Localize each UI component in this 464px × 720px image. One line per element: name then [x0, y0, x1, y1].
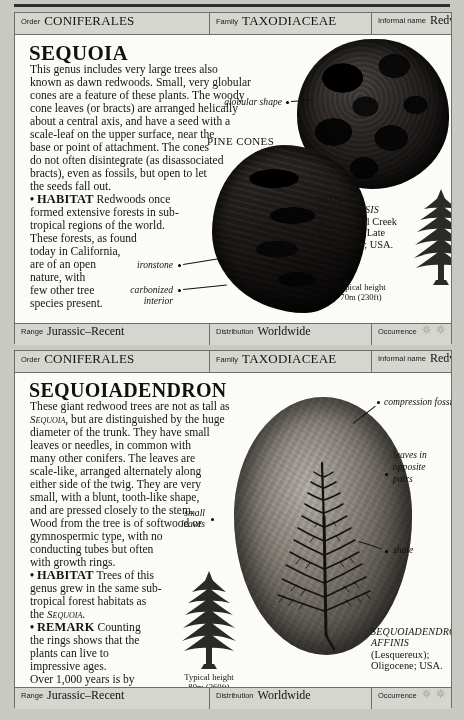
family-value: TAXODIACEAE — [242, 351, 336, 367]
habitat-bullet: • — [30, 569, 34, 582]
habitat-line: Redwoods once — [94, 193, 171, 206]
body-line: This genus includes very large trees als… — [30, 63, 298, 76]
body-line: many other conifers. The leaves are — [30, 452, 290, 465]
body-line-italic-lead: Sequoia, but are distinguished by the hu… — [30, 413, 290, 426]
habitat-line: These forests, as found — [30, 232, 230, 245]
family-cell: Family TAXODIACEAE — [209, 351, 371, 372]
body-line: Wood from the tree is of softwood or — [30, 517, 290, 530]
callout-text: carbonized interior — [130, 284, 173, 306]
rosette-icon — [435, 688, 446, 699]
entry-sequoia: Order CONIFERALES Family TAXODIACEAE Inf… — [14, 12, 452, 344]
habitat-line: Trees of this — [94, 569, 154, 582]
description-text: This genus includes very large trees als… — [30, 63, 298, 193]
order-cell: Order CONIFERALES — [15, 351, 209, 372]
occurrence-symbols — [421, 324, 446, 335]
callout-dot — [178, 289, 181, 292]
callout-dot — [377, 401, 380, 404]
range-value: Jurassic–Recent — [47, 688, 124, 703]
occurrence-cell: Occurrence — [371, 688, 451, 709]
entry-body: SEQUOIA This genus includes very large t… — [15, 35, 451, 323]
specimen-detail-line: Formation; Late — [318, 227, 385, 238]
habitat-first-line: • HABITAT Redwoods once — [30, 193, 230, 206]
callout-dot — [385, 550, 388, 553]
habitat-line: formed extensive forests in sub- — [30, 206, 230, 219]
body-line: conducting tubes but often — [30, 543, 290, 556]
entry-footer-bar: Range Jurassic–Recent Distribution World… — [15, 323, 451, 345]
occurrence-label: Occurrence — [378, 327, 417, 336]
body-line: known as dawn redwoods. Small, very glob… — [30, 76, 298, 89]
habitat-bullet: • — [30, 193, 34, 206]
distribution-value: Worldwide — [258, 688, 311, 703]
order-value: CONIFERALES — [44, 351, 134, 367]
fossil-reference-page: Order CONIFERALES Family TAXODIACEAE Inf… — [0, 0, 464, 720]
callout-dot — [385, 473, 388, 476]
remark-bullet: • — [30, 621, 34, 634]
body-line: bracts), even as fossils, but open to le… — [30, 167, 298, 180]
family-label: Family — [216, 355, 238, 364]
entry-sequoiadendron: Order CONIFERALES Family TAXODIACEAE Inf… — [14, 350, 452, 708]
callout-shale: shale — [393, 545, 413, 556]
informal-name-value: Redwood — [430, 13, 451, 28]
body-line: either side of the twig. They are very — [30, 478, 290, 491]
body-line: diameter of the trunk. They have small — [30, 426, 290, 439]
distribution-value: Worldwide — [258, 324, 311, 339]
inline-genus-italic: Sequoia — [47, 608, 82, 620]
callout-dot — [178, 264, 181, 267]
body-line: the seeds fall out. — [30, 180, 298, 193]
specimen-species-line: SEQUOIADENDRON — [371, 626, 451, 637]
range-label: Range — [21, 691, 43, 700]
rosette-icon — [421, 324, 432, 335]
informal-name-cell: Informal name Redwood — [371, 13, 451, 34]
body-line: and are pressed closely to the stem. — [30, 504, 290, 517]
distribution-cell: Distribution Worldwide — [209, 688, 371, 709]
body-line: do not often disintegrate (as disassocia… — [30, 154, 298, 167]
callout-carbonized-interior: carbonized interior — [107, 285, 173, 306]
range-cell: Range Jurassic–Recent — [15, 688, 209, 709]
body-line: small, with a blunt, tooth-like shape, — [30, 491, 290, 504]
occurrence-symbols — [421, 688, 446, 699]
callout-globular-shape: globular shape — [190, 97, 282, 108]
informal-name-value: Redwood — [430, 351, 451, 366]
rosette-icon — [421, 688, 432, 699]
body-line: leaves or needles, in common with — [30, 439, 290, 452]
entry-body: SEQUOIADENDRON These giant redwood trees… — [15, 373, 451, 687]
habitat-line: tropical regions of the world. — [30, 219, 230, 232]
callout-compression-fossil: compression fossil — [384, 397, 451, 408]
range-cell: Range Jurassic–Recent — [15, 324, 209, 345]
specimen-species: SEQUOIA DAKOTENSIS — [318, 193, 410, 216]
typical-height-note: Typical height 70m (230ft) — [315, 283, 407, 302]
remark-label: REMARK — [37, 621, 95, 634]
inline-genus-italic: Sequoia — [30, 413, 65, 425]
entry-header-bar: Order CONIFERALES Family TAXODIACEAE Inf… — [15, 351, 451, 373]
callout-small-leaves: small leaves — [163, 507, 205, 529]
distribution-label: Distribution — [216, 691, 254, 700]
body-line: gymnospermic type, with no — [30, 530, 290, 543]
informal-name-cell: Informal name Redwood — [371, 351, 451, 372]
habitat-line: today in California, — [30, 245, 230, 258]
callout-leaves-in-opposite-pairs: leaves in opposite pairs — [393, 449, 427, 485]
order-cell: Order CONIFERALES — [15, 13, 209, 34]
callout-text: small leaves — [181, 507, 205, 529]
callout-text: leaves in opposite pairs — [393, 449, 427, 484]
callout-dot — [211, 518, 214, 521]
occurrence-cell: Occurrence — [371, 324, 451, 345]
callout-dot — [286, 101, 289, 104]
typical-height-value: 70m (230ft) — [340, 292, 381, 302]
specimen-detail-line: Cretaceous; USA. — [318, 239, 393, 250]
habitat-line: nature, with — [30, 271, 230, 284]
order-label: Order — [21, 17, 40, 26]
family-label: Family — [216, 17, 238, 26]
callout-ironstone: ironstone — [111, 260, 173, 271]
body-line: with growth rings. — [30, 556, 290, 569]
rosette-icon — [435, 324, 446, 335]
typical-height-label: Typical height — [184, 672, 233, 682]
plate-caption: PINE CONES — [207, 135, 274, 147]
habitat-label: HABITAT — [37, 569, 94, 582]
specimen-detail-line: (Lesquereux); — [371, 649, 429, 660]
family-value: TAXODIACEAE — [242, 13, 336, 29]
distribution-cell: Distribution Worldwide — [209, 324, 371, 345]
habitat-tail: . — [82, 608, 85, 621]
scale-tree-silhouette — [173, 569, 245, 675]
body-line: These giant redwood trees are not as tal… — [30, 400, 290, 413]
habitat-label: HABITAT — [37, 193, 94, 206]
